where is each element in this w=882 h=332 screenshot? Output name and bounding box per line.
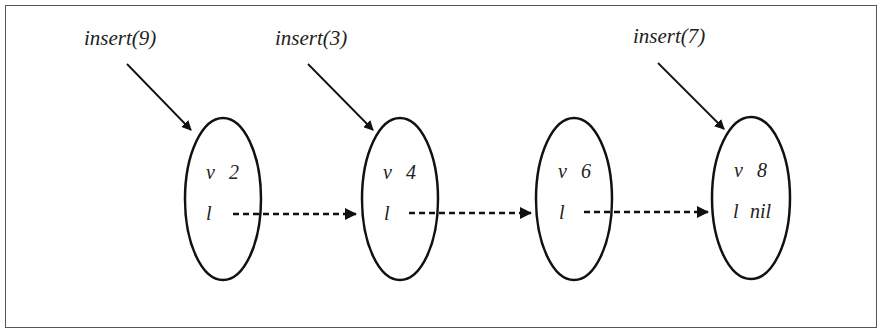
node-3-ellipse bbox=[712, 117, 790, 279]
node-3-value-key: v bbox=[734, 159, 743, 182]
node-2-link-key: l bbox=[559, 201, 565, 224]
node-1-link-key: l bbox=[384, 202, 390, 225]
node-1-value-key: v bbox=[383, 161, 392, 184]
node-1-ellipse bbox=[362, 118, 438, 280]
node-2-value: 6 bbox=[581, 160, 591, 183]
node-3-link-value: nil bbox=[750, 200, 771, 223]
node-0-ellipse bbox=[185, 118, 261, 280]
node-2-ellipse bbox=[536, 118, 612, 280]
node-0-value-key: v bbox=[206, 161, 215, 184]
insert-label-2: insert(7) bbox=[633, 24, 705, 49]
node-0-link-key: l bbox=[206, 202, 212, 225]
insert-arrow-0 bbox=[127, 64, 191, 130]
insert-label-0: insert(9) bbox=[84, 26, 156, 51]
node-0-value: 2 bbox=[229, 161, 239, 184]
insert-arrow-3 bbox=[658, 63, 724, 129]
insert-arrow-1 bbox=[308, 64, 373, 130]
node-3-link-key: l bbox=[733, 200, 739, 223]
node-3-value: 8 bbox=[757, 159, 767, 182]
node-1-value: 4 bbox=[406, 161, 416, 184]
insert-label-1: insert(3) bbox=[275, 26, 347, 51]
node-2-value-key: v bbox=[558, 160, 567, 183]
